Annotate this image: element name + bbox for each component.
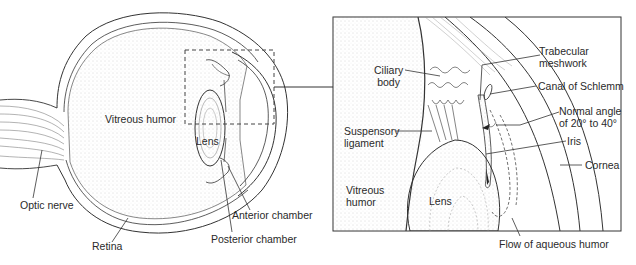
label-vitreous-line1: Vitreous — [346, 184, 384, 196]
eye-anatomy-diagram: Vitreous humor Lens Optic nerve Retina A… — [0, 0, 636, 265]
label-vitreous-line2: humor — [346, 196, 384, 208]
label-suspensory-ligament: Suspensory ligament — [344, 125, 399, 149]
label-flow-of-aqueous-humor: Flow of aqueous humor — [499, 238, 609, 250]
label-suspensory-line1: Suspensory — [344, 125, 399, 137]
label-iris: Iris — [567, 135, 581, 147]
label-ciliary-line2: body — [374, 76, 403, 88]
label-anterior-chamber: Anterior chamber — [232, 209, 313, 221]
label-vitreous-humor-magnified: Vitreous humor — [346, 184, 384, 208]
label-canal-of-schlemm: Canal of Schlemm — [538, 80, 624, 92]
label-trabecular-meshwork: Trabecular meshwork — [539, 45, 589, 69]
label-ciliary-body: Ciliary body — [374, 64, 403, 88]
label-angle-line1: Normal angle — [559, 105, 621, 117]
label-cornea: Cornea — [585, 159, 619, 171]
label-posterior-chamber: Posterior chamber — [211, 233, 297, 245]
label-retina: Retina — [92, 240, 122, 252]
label-suspensory-line2: ligament — [344, 137, 399, 149]
label-trabecular-line2: meshwork — [539, 57, 589, 69]
label-normal-angle: Normal angle of 20° to 40° — [559, 105, 621, 129]
label-lens-magnified: Lens — [429, 195, 452, 207]
label-trabecular-line1: Trabecular — [539, 45, 589, 57]
label-angle-line2: of 20° to 40° — [559, 117, 621, 129]
label-lens: Lens — [196, 135, 219, 147]
diagram-drawing — [0, 0, 636, 265]
label-optic-nerve: Optic nerve — [20, 199, 74, 211]
label-ciliary-line1: Ciliary — [374, 64, 403, 76]
label-vitreous-humor: Vitreous humor — [105, 113, 176, 125]
